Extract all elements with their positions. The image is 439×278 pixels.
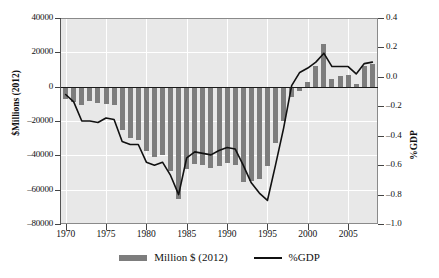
- tick-label-right: –0.8: [386, 190, 426, 199]
- bar-swatch-icon: [119, 255, 147, 261]
- line-series-layer: [60, 18, 378, 224]
- tick-label-x: 1995: [247, 229, 287, 239]
- tick-label-left: 40000: [5, 13, 53, 22]
- tick-right: [378, 136, 384, 137]
- tick-left: [55, 155, 61, 156]
- y-axis-right-title: %GDP: [409, 105, 419, 185]
- gridline-horizontal: [60, 224, 378, 225]
- tick-label-left-wrap: –40000: [0, 150, 53, 159]
- tick-left: [55, 18, 61, 19]
- tick-left: [55, 52, 61, 53]
- tick-label-x: 1970: [46, 229, 86, 239]
- tick-label-right-wrap: –0.8: [386, 190, 426, 199]
- tick-label-x: 1975: [86, 229, 126, 239]
- tick-left: [55, 121, 61, 122]
- legend-item-bar: Million $ (2012): [119, 252, 227, 263]
- tick-label-right-wrap: –0.4: [386, 131, 426, 140]
- chart-figure: 40000200000–20000–40000–60000–800000.40.…: [0, 0, 439, 278]
- tick-label-left-wrap: –60000: [0, 185, 53, 194]
- tick-right: [378, 47, 384, 48]
- tick-label-x: 2005: [328, 229, 368, 239]
- tick-label-left: –80000: [5, 219, 53, 228]
- tick-label-left-wrap: –80000: [0, 219, 53, 228]
- legend-item-line: %GDP: [254, 252, 320, 263]
- legend-label-line: %GDP: [289, 252, 320, 263]
- tick-label-right: –0.4: [386, 131, 426, 140]
- y-axis-left-title: $Millions (2012): [11, 43, 21, 163]
- tick-label-left-wrap: 20000: [0, 47, 53, 56]
- tick-label-right-wrap: –0.6: [386, 160, 426, 169]
- tick-left: [55, 224, 61, 225]
- tick-label-x: 1985: [167, 229, 207, 239]
- gdp-line: [66, 53, 373, 200]
- legend-label-bar: Million $ (2012): [154, 252, 227, 263]
- tick-label-right: –0.2: [386, 101, 426, 110]
- tick-label-right: –1.0: [386, 219, 426, 228]
- tick-label-right-wrap: –1.0: [386, 219, 426, 228]
- tick-label-right-wrap: 0.0: [386, 72, 426, 81]
- tick-right: [378, 77, 384, 78]
- tick-right: [378, 195, 384, 196]
- tick-right: [378, 18, 384, 19]
- tick-label-right: 0.2: [386, 42, 426, 51]
- zero-baseline: [60, 87, 378, 88]
- tick-label-right: –0.6: [386, 160, 426, 169]
- tick-label-x: 2000: [288, 229, 328, 239]
- tick-label-right: 0.4: [386, 13, 426, 22]
- tick-right: [378, 106, 384, 107]
- line-swatch-icon: [254, 257, 282, 259]
- tick-label-x: 1980: [126, 229, 166, 239]
- tick-label-left-wrap: –20000: [0, 116, 53, 125]
- tick-label-right: 0.0: [386, 72, 426, 81]
- tick-left: [55, 87, 61, 88]
- tick-label-right-wrap: 0.4: [386, 13, 426, 22]
- tick-left: [55, 190, 61, 191]
- tick-label-left-wrap: 0: [0, 82, 53, 91]
- tick-right: [378, 224, 384, 225]
- chart-legend: Million $ (2012) %GDP: [0, 252, 439, 263]
- tick-label-right-wrap: –0.2: [386, 101, 426, 110]
- tick-label-left: –60000: [5, 185, 53, 194]
- tick-right: [378, 165, 384, 166]
- tick-label-right-wrap: 0.2: [386, 42, 426, 51]
- tick-label-left-wrap: 40000: [0, 13, 53, 22]
- tick-label-x: 1990: [207, 229, 247, 239]
